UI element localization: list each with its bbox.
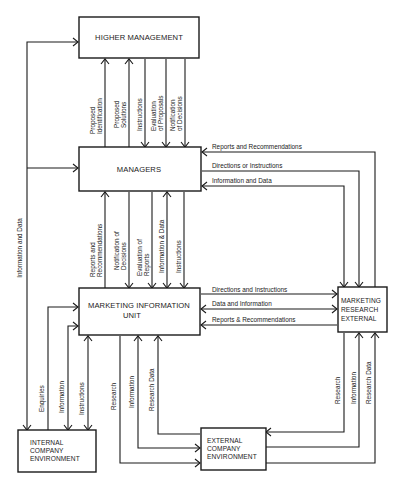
flow-label: Notification of [113,231,120,270]
connector-internal-information [68,326,78,430]
flow-label: Enquiries [38,385,46,412]
flow-label: Data and Information [212,300,272,307]
box-marketing-research-external: MARKETING RESEARCH EXTERNAL [338,287,387,332]
box-higher-management: HIGHER MANAGEMENT [79,17,199,58]
connector-mre-reports-to-managers [202,152,375,287]
box-label: MARKETING INFORMATION [88,301,190,310]
miu-external-labels: Research Information Research Data [110,368,155,411]
flow-label: of Proposals [157,95,165,131]
miu-mre-labels: Directions and Instructions Data and Inf… [212,286,295,324]
flow-label: Information and Data [212,177,272,184]
flow-label-information-and-data: Information and Data [16,218,23,278]
flow-label: Reports and Recommendations [212,143,302,151]
box-label: HIGHER MANAGEMENT [95,33,183,42]
box-label: RESEARCH [341,306,379,313]
connector-external-info-to-mre [266,333,359,447]
hm-managers-labels: Proposed Identification Proposed Solutio… [89,95,183,134]
box-label: COMPANY [30,447,64,454]
flow-label: Directions and Instructions [212,286,287,293]
flow-label: Reports & Recommendations [212,316,295,324]
box-label: MANAGERS [117,165,161,174]
flow-label: Instructions [136,98,143,131]
mre-external-labels: Research Information Research Data [334,361,372,404]
flow-label: Research Data [148,368,155,411]
flow-label: Directions or Instructions [212,162,282,169]
box-label: MARKETING [341,297,381,304]
managers-mre-labels: Reports and Recommendations Directions o… [212,143,302,184]
flow-label: Information [58,381,65,413]
flow-label: Evaluation of [136,239,143,276]
connector-internal-to-higher-mgmt [27,42,78,430]
box-label: ENVIRONMENT [207,453,257,460]
box-label: ENVIRONMENT [30,455,80,462]
flow-label: Information & Data [158,219,165,273]
flow-label: Research [110,382,117,410]
box-label: EXTERNAL [341,315,377,322]
flow-label: of Decisions [176,96,183,131]
flow-label: Research Data [365,361,372,404]
flow-label: Instructions [175,240,182,273]
box-label: UNIT [123,311,141,320]
flow-label: Reports [143,254,151,276]
connector-managers-directions-to-mre [202,171,359,287]
box-internal-company-environment: INTERNAL COMPANY ENVIRONMENT [18,430,96,472]
connector-mre-research [266,333,344,432]
flow-label: Research [334,376,341,404]
flow-label: Instructions [78,382,85,415]
flow-label: Evaluation [150,101,157,131]
connector-mre-info-to-managers [202,186,344,287]
flow-label: Information [350,372,357,404]
flow-label: Notification [169,99,176,131]
flow-label: Decisions [120,242,127,270]
box-label: COMPANY [207,445,241,452]
flow-label: Recommendations [96,224,103,277]
marketing-information-flow-diagram: HIGHER MANAGEMENT MANAGERS MARKETING INF… [0,0,402,485]
miu-internal-labels: Enquiries Information Instructions [38,381,85,415]
box-external-company-environment: EXTERNAL COMPANY ENVIRONMENT [201,428,266,470]
flow-label: Information [128,376,135,408]
box-managers: MANAGERS [79,147,201,191]
connector-external-research-data [158,336,200,434]
flow-label: Identification [96,98,103,134]
flow-label: Solutions [120,102,127,128]
managers-miu-labels: Reports and Recommendations Notification… [89,219,182,277]
arrowheads [23,38,379,467]
box-label: EXTERNAL [207,437,243,444]
box-label: INTERNAL [30,439,64,446]
box-marketing-information-unit: MARKETING INFORMATION UNIT [79,288,200,335]
